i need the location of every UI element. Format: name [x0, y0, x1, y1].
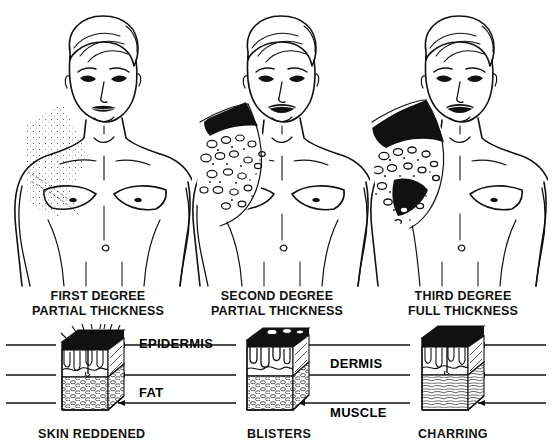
cross-section-area: EPIDERMIS DERMIS FAT MUSCLE — [0, 324, 552, 426]
layer-label-muscle: MUSCLE — [330, 405, 387, 420]
result-label-blisters: BLISTERS — [247, 427, 311, 441]
figures-row — [0, 0, 552, 288]
degree-label-third: THIRD DEGREE FULL THICKNESS — [368, 289, 552, 318]
degree-label-second-line2: PARTIAL THICKNESS — [182, 304, 372, 319]
burn-diagram: FIRST DEGREE PARTIAL THICKNESS SECOND DE… — [0, 0, 552, 445]
degree-label-third-line1: THIRD DEGREE — [368, 289, 552, 304]
result-label-skin-reddened: SKIN REDDENED — [38, 427, 145, 441]
layer-label-fat: FAT — [139, 385, 164, 400]
degree-label-first: FIRST DEGREE PARTIAL THICKNESS — [3, 289, 193, 318]
layer-label-dermis: DERMIS — [330, 356, 382, 371]
first-degree-figure — [8, 4, 192, 288]
third-degree-figure — [364, 4, 548, 288]
degree-label-second: SECOND DEGREE PARTIAL THICKNESS — [182, 289, 372, 318]
degree-label-third-line2: FULL THICKNESS — [368, 304, 552, 319]
degree-label-first-line1: FIRST DEGREE — [3, 289, 193, 304]
result-labels-row: SKIN REDDENED BLISTERS CHARRING — [0, 427, 552, 445]
second-degree-figure — [186, 4, 370, 288]
degree-label-second-line1: SECOND DEGREE — [182, 289, 372, 304]
layer-label-epidermis: EPIDERMIS — [139, 336, 213, 351]
degree-label-first-line2: PARTIAL THICKNESS — [3, 304, 193, 319]
degree-labels-row: FIRST DEGREE PARTIAL THICKNESS SECOND DE… — [0, 289, 552, 323]
result-label-charring: CHARRING — [418, 427, 488, 441]
